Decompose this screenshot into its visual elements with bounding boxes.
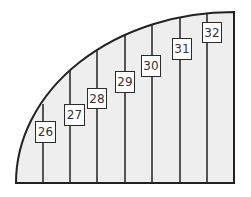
label-29: 29 — [115, 71, 135, 93]
label-26: 26 — [35, 121, 56, 143]
label-27: 27 — [64, 104, 85, 126]
label-28: 28 — [87, 88, 107, 109]
label-32: 32 — [202, 22, 222, 43]
label-31: 31 — [172, 38, 192, 60]
label-30: 30 — [141, 55, 161, 77]
